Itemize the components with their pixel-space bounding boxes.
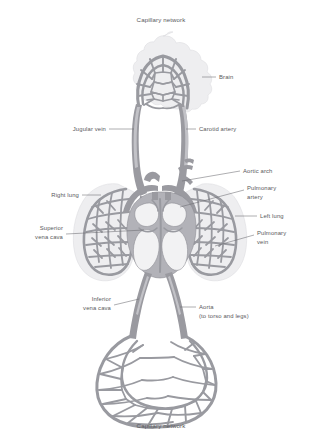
label-pulmonary-artery-line2: artery [247,194,263,200]
label-aortic-arch: Aortic arch [243,168,272,174]
neck-vessels [132,104,189,202]
heart-right-atrium [135,203,159,227]
lower-great-vessels [129,272,188,339]
label-inferior-vena-cava-line1: Inferior [92,296,111,302]
label-pulmonary-artery-line1: Pulmonary [247,185,276,191]
label-superior-vena-cava-line2: vena cava [35,234,64,240]
label-pulmonary-vein-line2: vein [257,239,268,245]
caption-top-capillary-network: Capillary network [137,16,187,23]
label-right-lung: Right lung [51,192,79,198]
circulatory-system-diagram: Capillary network Brain Jugular vein Car… [0,0,323,439]
label-aorta-line1: Aorta [199,304,214,310]
label-aorta-line2: (to torso and legs) [199,313,249,319]
label-inferior-vena-cava-line2: vena cava [83,305,112,311]
label-carotid-artery: Carotid artery [199,126,236,132]
heart-outflow-left [152,192,158,200]
lower-capillary-network [97,336,216,427]
aortic-arch-vessel [144,172,160,182]
leader-aortic-arch [182,171,240,181]
heart [127,192,196,278]
aorta-descending-vessel [165,272,188,339]
heart-outflow-right [165,192,171,200]
label-superior-vena-cava-line1: Superior [40,225,63,231]
diagram-canvas: Capillary network Brain Jugular vein Car… [0,0,323,439]
label-brain: Brain [219,74,233,80]
caption-bottom-capillary-network: Capillary network [137,422,187,429]
leader-inferior-vena-cava [114,299,139,305]
label-pulmonary-vein-line1: Pulmonary [257,230,286,236]
inferior-vena-cava-vessel [129,272,152,339]
label-jugular-vein: Jugular vein [73,126,106,132]
heart-septum [160,199,161,272]
label-left-lung: Left lung [260,213,284,219]
brain-capillary-network [133,32,211,112]
